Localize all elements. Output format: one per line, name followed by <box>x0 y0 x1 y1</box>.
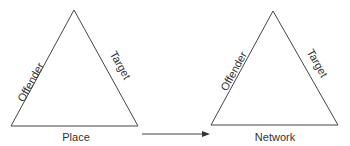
left-offender-label: Offender <box>15 60 46 103</box>
network-label: Network <box>255 131 296 143</box>
left-target-label: Target <box>108 49 133 82</box>
left-triangle: Offender Target Place <box>11 10 138 143</box>
arrow <box>142 131 210 137</box>
place-label: Place <box>62 131 90 143</box>
right-offender-label: Offender <box>218 49 249 92</box>
arrow-head-icon <box>202 131 210 137</box>
right-triangle: Offender Target Network <box>211 11 338 143</box>
crime-triangle-diagram: Offender Target Place Offender Target Ne… <box>0 0 350 146</box>
